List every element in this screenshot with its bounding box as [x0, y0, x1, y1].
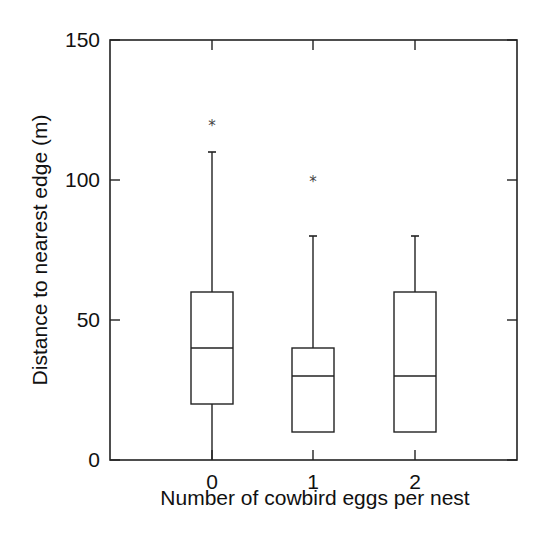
y-axis-ticks: 050100150: [65, 28, 517, 471]
box-plot: 050100150 012 ** Number of cowbird eggs …: [0, 0, 550, 537]
y-tick-label: 50: [77, 308, 100, 331]
y-tick-label: 0: [88, 448, 100, 471]
box-1: *: [292, 173, 334, 432]
y-axis-label: Distance to nearest edge (m): [28, 115, 51, 386]
box-0: *: [191, 117, 233, 460]
box-2: [394, 236, 436, 432]
y-tick-label: 100: [65, 168, 100, 191]
iqr-box: [292, 348, 334, 432]
outlier-asterisk: *: [208, 117, 216, 135]
x-axis-label: Number of cowbird eggs per nest: [160, 486, 469, 509]
iqr-box: [394, 292, 436, 432]
y-tick-label: 150: [65, 28, 100, 51]
outlier-asterisk: *: [309, 173, 317, 191]
boxes: **: [191, 117, 436, 460]
